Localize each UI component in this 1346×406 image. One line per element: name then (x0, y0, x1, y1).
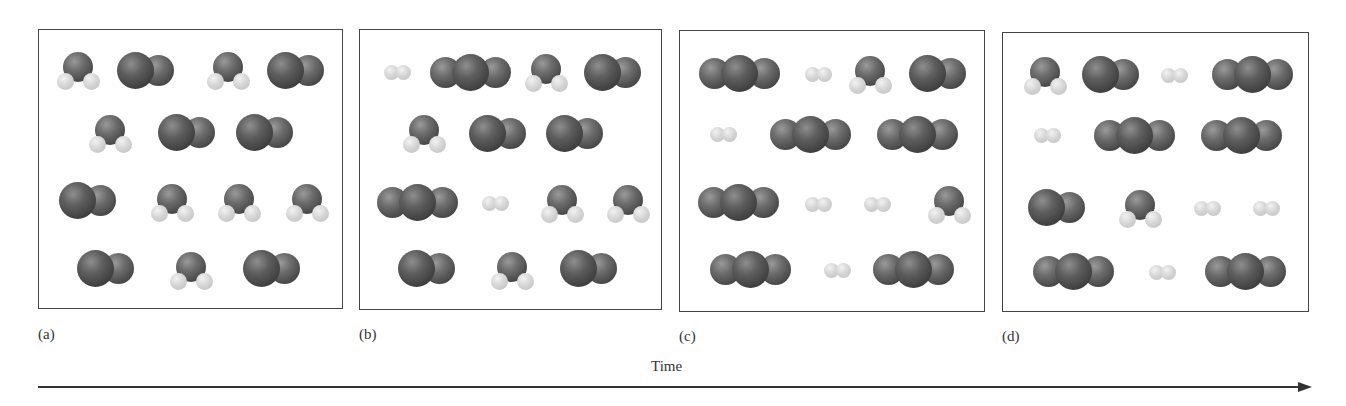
hydrogen-atom (517, 273, 534, 290)
panel-label-a: (a) (38, 326, 55, 343)
heavy-atom (584, 54, 621, 91)
hydrogen-atom (1265, 201, 1280, 216)
heavy-atom (469, 115, 506, 152)
hydrogen-atom (89, 136, 106, 153)
hydrogen-atom (541, 206, 558, 223)
heavy-atom (721, 55, 758, 92)
heavy-atom (1234, 56, 1271, 93)
hydrogen-atom (876, 197, 891, 212)
panel-label-c: (c) (679, 328, 696, 345)
heavy-atom (1055, 253, 1092, 290)
heavy-atom (398, 250, 435, 287)
hydrogen-atom (286, 205, 303, 222)
hydrogen-atom (312, 205, 329, 222)
heavy-atom (452, 54, 489, 91)
heavy-atom (399, 184, 436, 221)
hydrogen-atom (567, 206, 584, 223)
time-arrow-head-icon (1298, 382, 1312, 392)
hydrogen-atom (244, 205, 261, 222)
hydrogen-atom (875, 77, 892, 94)
hydrogen-atom (1173, 68, 1188, 83)
hydrogen-atom (722, 127, 737, 142)
hydrogen-atom (151, 205, 168, 222)
hydrogen-atom (928, 207, 945, 224)
hydrogen-atom (196, 273, 213, 290)
heavy-atom (732, 251, 769, 288)
hydrogen-atom (1161, 265, 1176, 280)
hydrogen-atom (817, 67, 832, 82)
heavy-atom (1223, 117, 1260, 154)
hydrogen-atom (403, 136, 420, 153)
hydrogen-atom (954, 207, 971, 224)
heavy-atom (243, 250, 280, 287)
panel-label-b: (b) (359, 326, 377, 343)
hydrogen-atom (170, 273, 187, 290)
hydrogen-atom (396, 65, 411, 80)
hydrogen-atom (1050, 78, 1067, 95)
heavy-atom (158, 114, 195, 151)
hydrogen-atom (1119, 211, 1136, 228)
hydrogen-atom (551, 75, 568, 92)
hydrogen-atom (1024, 78, 1041, 95)
hydrogen-atom (836, 263, 851, 278)
hydrogen-atom (233, 73, 250, 90)
hydrogen-atom (849, 77, 866, 94)
hydrogen-atom (429, 136, 446, 153)
heavy-atom (1082, 56, 1119, 93)
hydrogen-atom (177, 205, 194, 222)
heavy-atom (117, 52, 154, 89)
heavy-atom (909, 55, 946, 92)
hydrogen-atom (494, 196, 509, 211)
hydrogen-atom (525, 75, 542, 92)
heavy-atom (1116, 117, 1153, 154)
hydrogen-atom (607, 206, 624, 223)
hydrogen-atom (218, 205, 235, 222)
time-axis-label: Time (651, 358, 682, 375)
hydrogen-atom (115, 136, 132, 153)
hydrogen-atom (817, 197, 832, 212)
heavy-atom (792, 116, 829, 153)
heavy-atom (267, 52, 304, 89)
heavy-atom (77, 250, 114, 287)
heavy-atom (236, 114, 273, 151)
panel-label-d: (d) (1002, 328, 1020, 345)
heavy-atom (899, 116, 936, 153)
hydrogen-atom (491, 273, 508, 290)
heavy-atom (720, 184, 757, 221)
hydrogen-atom (57, 73, 74, 90)
hydrogen-atom (633, 206, 650, 223)
hydrogen-atom (1206, 201, 1221, 216)
heavy-atom (895, 251, 932, 288)
heavy-atom (1028, 189, 1065, 226)
hydrogen-atom (1046, 128, 1061, 143)
time-arrow-line (38, 386, 1300, 388)
heavy-atom (59, 182, 96, 219)
heavy-atom (560, 250, 597, 287)
hydrogen-atom (207, 73, 224, 90)
heavy-atom (1227, 253, 1264, 290)
heavy-atom (546, 115, 583, 152)
hydrogen-atom (1145, 211, 1162, 228)
hydrogen-atom (83, 73, 100, 90)
